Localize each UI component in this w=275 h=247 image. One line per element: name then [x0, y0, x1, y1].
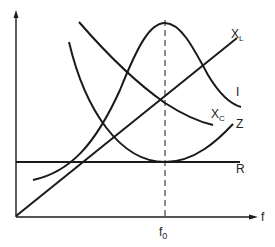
resonance-diagram: XL I XC Z R f f0	[0, 0, 275, 247]
x-axis-arrow-icon	[249, 215, 258, 220]
label-x-axis-f: f	[261, 210, 265, 224]
label-xl: XL	[231, 27, 244, 43]
y-axis-arrow-icon	[14, 10, 19, 18]
label-xc: XC	[211, 107, 225, 123]
label-r: R	[236, 162, 245, 176]
curve-xl	[16, 38, 237, 216]
curve-i	[33, 23, 241, 180]
label-f0: f0	[159, 225, 167, 241]
label-z: Z	[236, 117, 243, 131]
label-i: I	[236, 85, 239, 99]
